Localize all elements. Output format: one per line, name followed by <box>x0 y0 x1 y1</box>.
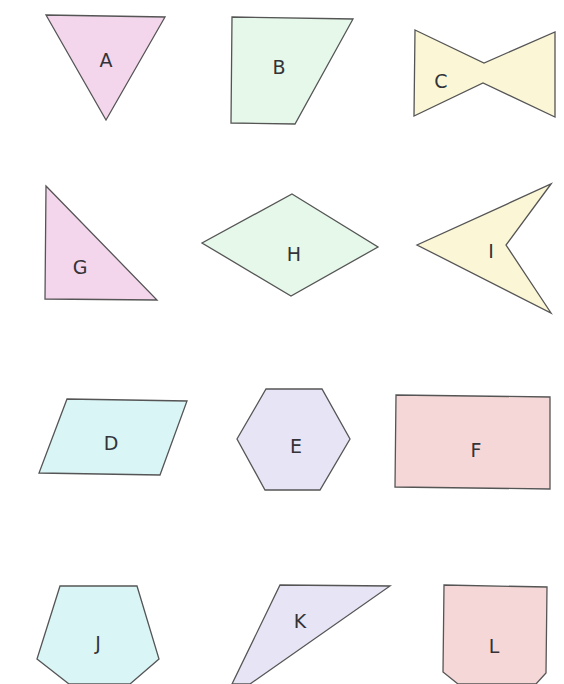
shape-label: F <box>471 439 482 461</box>
shape-j-pentagon: J <box>37 586 159 684</box>
shape-label: C <box>434 70 447 92</box>
shape-label: G <box>73 256 88 278</box>
shape-label: L <box>489 635 500 657</box>
shape-label: H <box>287 243 301 265</box>
shape-label: A <box>100 49 113 71</box>
shape-label: D <box>104 432 119 454</box>
shape-label: E <box>290 435 302 457</box>
shape-f-rectangle: F <box>395 395 550 489</box>
shapes-worksheet: ABCGHIDEFJKL <box>0 0 564 684</box>
shape-label: I <box>488 240 494 262</box>
shape-label: J <box>94 632 101 654</box>
shape-label: K <box>294 610 307 632</box>
shape-l-pointed-pentagon: L <box>443 585 547 684</box>
shape-label: B <box>272 56 285 78</box>
